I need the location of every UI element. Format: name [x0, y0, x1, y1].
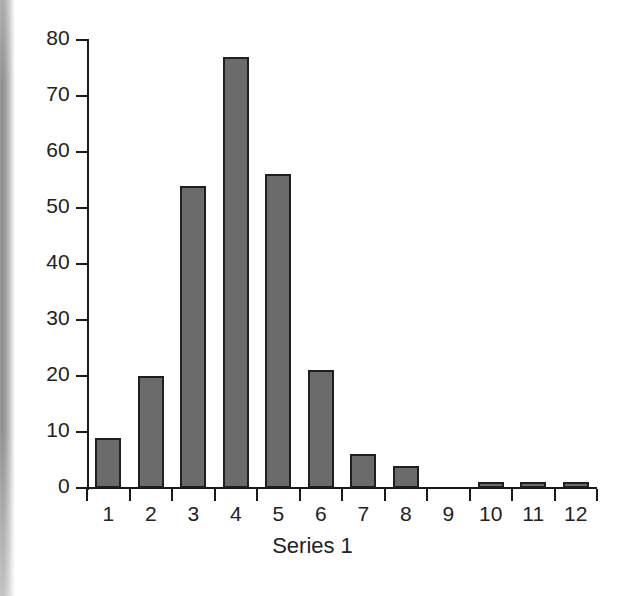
y-axis-tick-label: 70 [20, 82, 70, 106]
y-axis-tick [76, 263, 87, 265]
x-axis-tick [511, 489, 513, 501]
y-axis-tick [76, 95, 87, 97]
x-axis-tick [171, 489, 173, 501]
x-axis-tick-label: 3 [172, 502, 215, 526]
x-axis-tick-label: 8 [385, 502, 428, 526]
bar [138, 376, 164, 488]
x-axis-tick-label: 2 [130, 502, 173, 526]
bar [393, 466, 419, 488]
y-axis-tick-label: 60 [20, 138, 70, 162]
y-axis-line [87, 39, 89, 490]
x-axis-tick [341, 489, 343, 501]
x-axis-tick [554, 489, 556, 501]
x-axis-tick [384, 489, 386, 501]
bar [563, 482, 589, 488]
y-axis-tick [76, 151, 87, 153]
bar [180, 186, 206, 488]
y-axis-tick-label: 20 [20, 362, 70, 386]
x-axis-tick [299, 489, 301, 501]
y-axis-tick [76, 375, 87, 377]
y-axis-tick [76, 319, 87, 321]
x-axis-tick-label: 5 [257, 502, 300, 526]
bar [223, 57, 249, 488]
x-axis-tick [596, 489, 598, 501]
x-axis-tick [426, 489, 428, 501]
y-axis-tick-label: 40 [20, 250, 70, 274]
y-axis-tick-label: 10 [20, 418, 70, 442]
x-axis-tick-label: 10 [470, 502, 513, 526]
y-axis-tick [76, 39, 87, 41]
x-axis-tick-label: 12 [555, 502, 598, 526]
x-axis-tick-label: 7 [342, 502, 385, 526]
x-axis-tick-label: 4 [215, 502, 258, 526]
x-axis-tick-label: 9 [427, 502, 470, 526]
bar [478, 482, 504, 488]
x-axis-tick [86, 489, 88, 501]
bar [520, 482, 546, 488]
x-axis-tick [469, 489, 471, 501]
y-axis-tick-label: 30 [20, 306, 70, 330]
y-axis-tick [76, 431, 87, 433]
bar-chart: 01020304050607080 123456789101112 Series… [0, 0, 625, 596]
bar [308, 370, 334, 488]
y-axis-tick-label: 50 [20, 194, 70, 218]
y-axis-tick [76, 207, 87, 209]
x-axis-title: Series 1 [0, 533, 625, 559]
x-axis-tick-label: 1 [87, 502, 130, 526]
y-axis-tick-label: 80 [20, 26, 70, 50]
y-axis-tick-label: 0 [20, 474, 70, 498]
x-axis-tick [256, 489, 258, 501]
x-axis-tick [129, 489, 131, 501]
x-axis-tick [214, 489, 216, 501]
x-axis-tick-label: 11 [512, 502, 555, 526]
bar [265, 174, 291, 488]
bar [350, 454, 376, 488]
x-axis-tick-label: 6 [300, 502, 343, 526]
chart-page: 01020304050607080 123456789101112 Series… [0, 0, 625, 596]
bar [95, 438, 121, 488]
